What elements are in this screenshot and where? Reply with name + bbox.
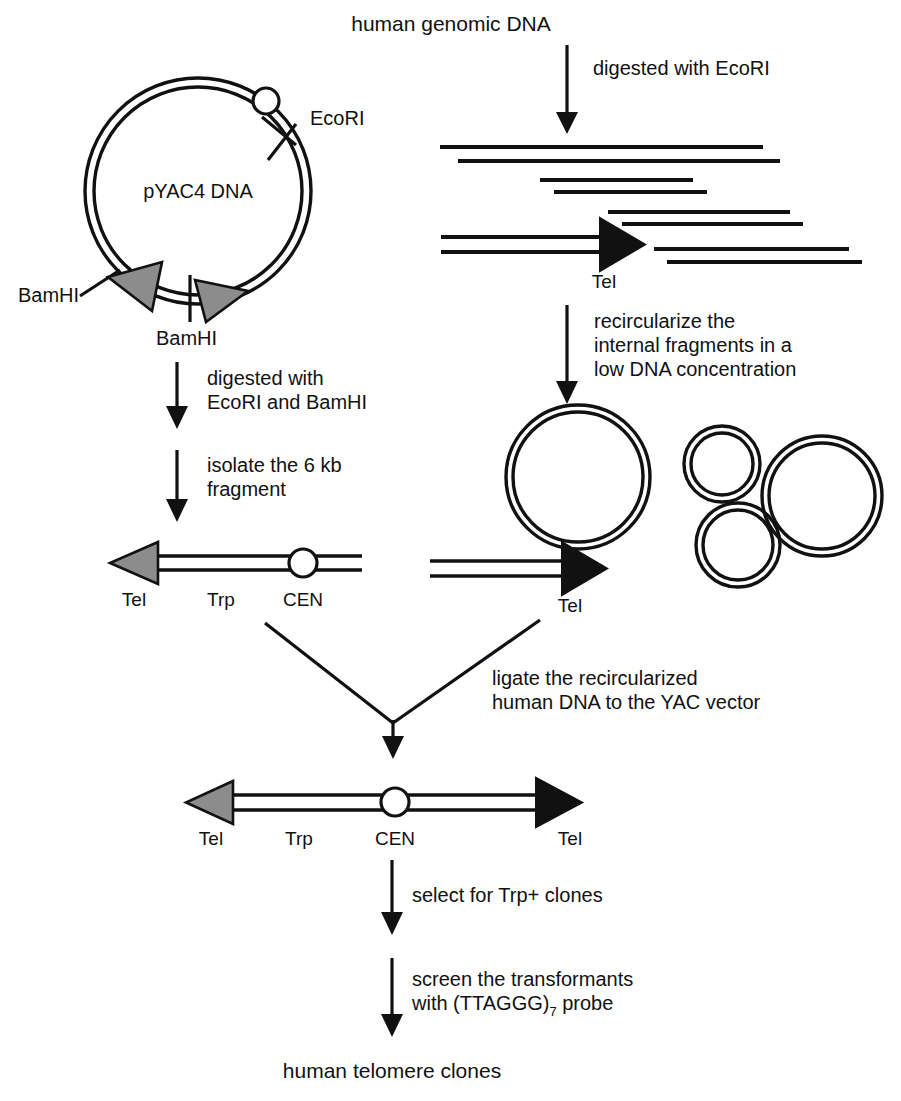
screen-probe-pre: with (TTAGGG) <box>411 992 549 1014</box>
final-trp-label: Trp <box>285 828 313 849</box>
screen-probe-subscript: 7 <box>549 1004 556 1019</box>
figure-root: human genomic DNA digested with EcoRI Te… <box>0 0 901 1101</box>
cen-marker-left-arm <box>289 549 317 577</box>
screen-probe-post: probe <box>557 992 614 1014</box>
isolate-line-2: fragment <box>207 478 286 500</box>
left-arm-tel-label: Tel <box>122 589 146 610</box>
tel-label-top-fragment: Tel <box>592 271 616 292</box>
digest-ecori-bamhi-line-2: EcoRI and BamHI <box>207 391 367 413</box>
final-cen-label: CEN <box>375 828 415 849</box>
bamhi-left-label: BamHI <box>18 284 79 306</box>
digest-ecori-bamhi-line-1: digested with <box>207 367 324 389</box>
final-tel-left-label: Tel <box>199 828 223 849</box>
human-telomere-clones-label: human telomere clones <box>283 1059 501 1082</box>
isolate-line-1: isolate the 6 kb <box>207 454 342 476</box>
plasmid-name-label: pYAC4 DNA <box>143 180 253 202</box>
bamhi-bottom-label: BamHI <box>156 327 217 349</box>
screen-line-1: screen the transformants <box>412 968 633 990</box>
yac-cloning-diagram: human genomic DNA digested with EcoRI Te… <box>0 0 901 1101</box>
recircularize-line-3: low DNA concentration <box>594 358 796 380</box>
recircularize-line-2: internal fragments in a <box>594 334 793 356</box>
digested-with-ecori-label: digested with EcoRI <box>593 57 770 79</box>
cen-marker-icon <box>253 88 279 114</box>
select-trp-label: select for Trp+ clones <box>412 884 603 906</box>
ecori-site-label: EcoRI <box>310 107 364 129</box>
left-arm-trp-label: Trp <box>207 589 235 610</box>
final-cen-marker <box>381 788 409 816</box>
ligate-line-2: human DNA to the YAC vector <box>492 691 761 713</box>
canvas-background <box>0 0 901 1101</box>
right-arm-tel-label: Tel <box>558 595 582 616</box>
human-genomic-dna-label: human genomic DNA <box>351 12 551 35</box>
recircularize-line-1: recircularize the <box>594 310 735 332</box>
ligate-line-1: ligate the recircularized <box>492 667 698 689</box>
final-tel-right-label: Tel <box>558 828 582 849</box>
left-arm-cen-label: CEN <box>283 589 323 610</box>
